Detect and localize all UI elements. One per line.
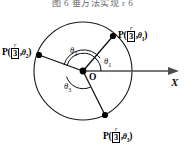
point-label-p2: P(r3,θ2) bbox=[2, 42, 31, 59]
fraction-denominator-p1: 3 bbox=[127, 32, 135, 42]
point-marker-p3 bbox=[102, 112, 108, 118]
angle-arc-theta1 bbox=[95, 58, 101, 72]
point-label-p3-suffix: ) bbox=[129, 131, 132, 141]
point-label-p1-suffix: ) bbox=[144, 30, 147, 40]
fraction-denominator-p3: 3 bbox=[112, 133, 120, 143]
point-label-p2-suffix: ) bbox=[28, 47, 31, 57]
point-label-p3: P(r3,θ3) bbox=[103, 126, 132, 143]
origin-marker bbox=[80, 68, 87, 75]
radius-line-p2 bbox=[39, 55, 83, 71]
figure-container: 图 6 垂方法实现 r 6 P(r3,θ1) bbox=[0, 0, 185, 148]
point-marker-p2 bbox=[36, 52, 42, 58]
point-marker-p1 bbox=[110, 33, 116, 39]
origin-label: O bbox=[89, 72, 96, 82]
angle-theta1-index: 1 bbox=[108, 62, 111, 68]
angle-label-theta1: θ1 bbox=[104, 56, 111, 68]
point-label-p3-prefix: P( bbox=[103, 131, 112, 141]
point-label-p2-prefix: P( bbox=[2, 47, 11, 57]
angle-label-theta2: θ2 bbox=[70, 45, 77, 57]
fraction-r-over-3-p1: r3 bbox=[127, 25, 135, 42]
angle-label-theta3: θ3 bbox=[64, 81, 71, 93]
x-axis-label: X bbox=[171, 76, 178, 88]
point-label-p1: P(r3,θ1) bbox=[118, 25, 147, 42]
fraction-r-over-3-p2: r3 bbox=[11, 42, 19, 59]
point-label-p1-prefix: P( bbox=[118, 30, 127, 40]
fraction-denominator-p2: 3 bbox=[11, 49, 19, 59]
fraction-r-over-3-p3: r3 bbox=[112, 126, 120, 143]
angle-theta3-index: 3 bbox=[68, 87, 71, 93]
angle-theta2-index: 2 bbox=[74, 51, 77, 57]
